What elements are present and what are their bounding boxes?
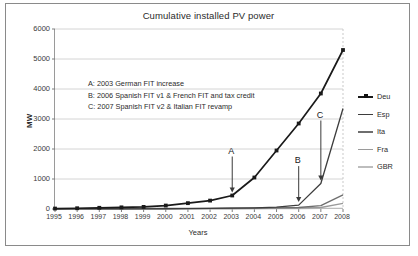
legend-swatch-fra-icon — [358, 145, 373, 154]
x-axis-label: Years — [54, 228, 342, 237]
annotation-text-b: B: 2006 Spanish FIT v1 & French FIT and … — [88, 90, 254, 102]
y-tick-label: 3000 — [10, 114, 50, 123]
series-marker-deu — [97, 206, 101, 210]
series-marker-deu — [142, 205, 146, 209]
series-marker-deu — [75, 206, 79, 210]
annotation-marker-c: C — [317, 110, 324, 120]
series-line-deu — [55, 50, 343, 209]
y-tick-label: 4000 — [10, 84, 50, 93]
series-marker-deu — [341, 48, 345, 52]
series-marker-deu — [319, 92, 323, 96]
series-marker-deu — [275, 149, 279, 153]
chart-title: Cumulative installed PV power — [6, 10, 411, 21]
y-tick-label: 5000 — [10, 54, 50, 63]
legend-label-esp: Esp — [377, 110, 390, 119]
series-marker-deu — [164, 204, 168, 208]
legend-label-gbr: GBR — [377, 162, 393, 171]
legend-item-ita: Ita — [358, 123, 410, 141]
series-marker-deu — [230, 194, 234, 198]
annotation-text-c: C: 2007 Spanish FIT v2 & Italian FIT rev… — [88, 101, 254, 113]
plot-svg — [55, 29, 343, 209]
series-marker-deu — [208, 199, 212, 203]
annotation-marker-a: A — [228, 146, 234, 156]
annotation-legend: A: 2003 German FIT increase B: 2006 Span… — [88, 78, 254, 113]
legend-item-fra: Fra — [358, 141, 410, 159]
y-tick-label: 1000 — [10, 174, 50, 183]
legend-item-deu: Deu — [358, 88, 410, 106]
series-marker-deu — [186, 201, 190, 205]
legend-label-deu: Deu — [377, 92, 390, 101]
legend-swatch-ita-icon — [358, 127, 373, 136]
annotation-arrow-head-b — [296, 197, 301, 202]
legend-swatch-esp-icon — [358, 110, 373, 119]
legend-label-ita: Ita — [377, 127, 385, 136]
annotation-text-a: A: 2003 German FIT increase — [88, 78, 254, 90]
series-marker-deu — [252, 176, 256, 180]
series-marker-deu — [120, 205, 124, 209]
y-tick-label: 6000 — [10, 24, 50, 33]
plot-area — [54, 29, 342, 209]
series-marker-deu — [297, 122, 301, 126]
legend-item-gbr: GBR — [358, 158, 410, 176]
annotation-arrow-head-a — [230, 188, 235, 193]
series-legend: Deu Esp Ita Fra GBR — [358, 88, 410, 176]
series-marker-deu — [53, 207, 57, 211]
x-tick-label: 2008 — [329, 213, 355, 220]
legend-label-fra: Fra — [377, 145, 388, 154]
chart-canvas: Cumulative installed PV power MW 0100020… — [6, 4, 411, 247]
figure-frame: Cumulative installed PV power MW 0100020… — [5, 3, 410, 246]
annotation-marker-b: B — [295, 155, 301, 165]
legend-swatch-gbr-icon — [358, 162, 373, 171]
y-tick-label: 2000 — [10, 144, 50, 153]
y-tick-label: 0 — [10, 204, 50, 213]
legend-item-esp: Esp — [358, 106, 410, 124]
legend-swatch-deu-icon — [358, 92, 373, 101]
